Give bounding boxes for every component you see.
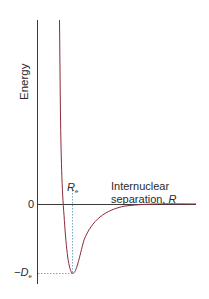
x-axis-label: Internuclear separation, R — [111, 180, 176, 206]
de-subscript: e — [28, 273, 31, 279]
y-axis-label: Energy — [18, 64, 30, 100]
well-depth-label: −De — [14, 266, 32, 282]
x-axis-label-text: separation, — [111, 193, 168, 205]
zero-label: 0 — [28, 198, 34, 210]
x-axis-label-line1: Internuclear — [111, 180, 176, 193]
x-axis-symbol: R — [168, 193, 176, 205]
potential-curve — [60, 20, 197, 273]
re-symbol: R — [67, 181, 75, 193]
de-symbol: −D — [14, 266, 28, 278]
diagram-canvas — [0, 0, 209, 299]
potential-energy-diagram: Energy 0 Re −De Internuclear separation,… — [0, 0, 209, 299]
re-subscript: e — [75, 188, 78, 194]
x-axis-label-line2: separation, R — [111, 193, 176, 206]
equilibrium-distance-label: Re — [67, 181, 78, 197]
